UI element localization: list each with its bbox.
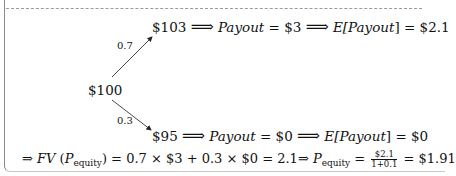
down-payout-value: = $0 <box>256 128 293 144</box>
implies-arrow-icon: ⟹ <box>191 17 214 36</box>
open-paren: ( <box>55 151 64 166</box>
fraction-denominator: 1+0.1 <box>371 160 397 169</box>
discount-fraction: $2.11+0.1 <box>371 150 397 169</box>
equals: = <box>350 151 369 166</box>
implies-icon: ⇒ <box>22 151 33 166</box>
down-expect-label: Payout <box>339 128 385 144</box>
implies-arrow-icon: ⟹ <box>297 126 320 145</box>
up-expect-pre: E[ <box>333 19 348 35</box>
implies-arrow-icon: ⟹ <box>182 126 205 145</box>
down-price: $95 <box>152 128 178 144</box>
down-outcome-row: $95 ⟹ Payout = $0 ⟹ E[Payout] = $0 <box>152 128 428 144</box>
up-expect-label: Payout <box>348 19 394 35</box>
down-payout-label: Payout <box>209 128 255 144</box>
root-price: $100 <box>88 82 122 98</box>
down-probability: 0.3 <box>117 113 133 129</box>
implies-arrow-icon: ⟹ <box>306 17 329 36</box>
down-expect-pre: E[ <box>324 128 339 144</box>
up-payout-label: Payout <box>218 19 264 35</box>
up-payout-value: = $3 <box>264 19 301 35</box>
up-outcome-row: $103 ⟹ Payout = $3 ⟹ E[Payout] = $2.1 <box>152 19 450 35</box>
up-price: $103 <box>152 19 186 35</box>
up-expect-value: ] = $2.1 <box>394 19 449 35</box>
down-expect-value: ] = $0 <box>386 128 428 144</box>
result-value: = $1.91 <box>399 151 455 166</box>
valuation-formula: ⇒ FV (Pequity) = 0.7 × $3 + 0.3 × $0 = 2… <box>22 150 456 171</box>
p-symbol-2: P <box>313 151 322 166</box>
p-subscript-2: equity <box>322 158 350 168</box>
fv-label: FV <box>37 151 55 166</box>
up-probability: 0.7 <box>117 38 133 54</box>
fv-calculation: = 0.7 × $3 + 0.3 × $0 = 2.1⇒ <box>107 151 313 166</box>
p-subscript: equity <box>73 158 101 168</box>
